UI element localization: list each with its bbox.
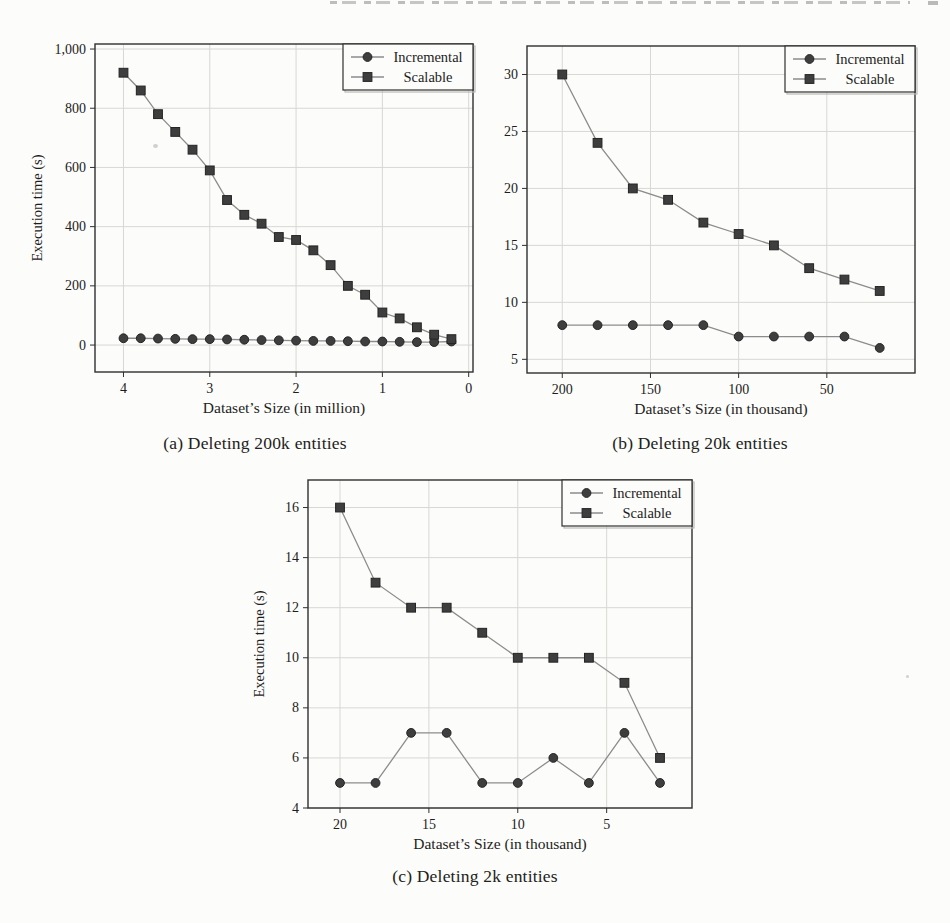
square-marker <box>378 308 387 317</box>
circle-marker <box>257 336 266 345</box>
square-marker <box>628 184 637 193</box>
circle-marker <box>407 728 416 737</box>
circle-marker <box>584 779 593 788</box>
square-marker <box>336 503 345 512</box>
square-marker <box>407 603 416 612</box>
circle-marker <box>805 332 814 341</box>
chart-a-plot: 4321002004006008001,000Dataset’s Size (i… <box>30 28 480 423</box>
y-tick-label: 20 <box>504 181 518 196</box>
circle-marker <box>223 335 232 344</box>
square-marker <box>442 603 451 612</box>
square-marker <box>447 335 456 344</box>
circle-marker <box>478 779 487 788</box>
x-tick-label: 3 <box>206 381 213 396</box>
x-tick-label: 20 <box>333 817 347 832</box>
caption-subfigure-a: (a) Deleting 200k entities <box>30 433 480 454</box>
x-axis-label: Dataset’s Size (in million) <box>203 399 365 417</box>
scan-speck <box>906 675 909 678</box>
square-marker <box>223 196 232 205</box>
y-tick-label: 5 <box>511 352 518 367</box>
y-tick-label: 1,000 <box>55 42 87 57</box>
circle-marker <box>343 337 352 346</box>
y-tick-label: 30 <box>504 67 518 82</box>
clipped-page-number <box>928 1 938 5</box>
circle-marker <box>442 728 451 737</box>
square-marker <box>840 275 849 284</box>
circle-marker <box>593 321 602 330</box>
square-marker <box>119 68 128 77</box>
square-marker <box>171 128 180 137</box>
legend-label-scalable: Scalable <box>622 505 671 521</box>
y-tick-label: 8 <box>292 700 299 715</box>
square-marker <box>361 290 370 299</box>
y-tick-label: 200 <box>65 278 86 293</box>
caption-subfigure-b: (b) Deleting 20k entities <box>490 433 910 454</box>
square-marker <box>549 653 558 662</box>
circle-marker <box>620 728 629 737</box>
circle-marker <box>336 779 345 788</box>
square-marker <box>478 628 487 637</box>
scan-speck <box>153 144 158 148</box>
square-marker <box>584 653 593 662</box>
y-tick-label: 14 <box>285 550 299 565</box>
square-marker <box>371 578 380 587</box>
circle-marker <box>205 335 214 344</box>
square-marker <box>343 281 352 290</box>
square-marker <box>205 166 214 175</box>
square-marker <box>699 218 708 227</box>
circle-marker <box>292 336 301 345</box>
square-marker <box>257 219 266 228</box>
circle-marker <box>154 334 163 343</box>
y-tick-label: 600 <box>65 160 86 175</box>
x-tick-label: 10 <box>511 817 525 832</box>
circle-marker <box>363 53 372 62</box>
legend-label-scalable: Scalable <box>403 69 452 85</box>
scanned-paper-page: 4321002004006008001,000Dataset’s Size (i… <box>0 0 950 923</box>
square-marker <box>656 754 665 763</box>
square-marker <box>188 145 197 154</box>
circle-marker <box>240 335 249 344</box>
chart-b-deleting-20k: 2001501005051015202530Dataset’s Size (in… <box>490 28 945 423</box>
x-tick-label: 2 <box>293 381 300 396</box>
x-tick-label: 150 <box>640 382 661 397</box>
y-tick-label: 10 <box>285 650 299 665</box>
circle-marker <box>805 55 814 64</box>
circle-marker <box>558 321 567 330</box>
square-marker <box>430 330 439 339</box>
square-marker <box>395 314 404 323</box>
square-marker <box>734 230 743 239</box>
square-marker <box>413 323 422 332</box>
square-marker <box>240 210 249 219</box>
circle-marker <box>656 779 665 788</box>
square-marker <box>620 678 629 687</box>
circle-marker <box>378 337 387 346</box>
y-axis-label: Execution time (s) <box>251 590 268 697</box>
scalable-series-line <box>562 74 879 290</box>
circle-marker <box>361 337 370 346</box>
circle-marker <box>549 754 558 763</box>
circle-marker <box>699 321 708 330</box>
circle-marker <box>734 332 743 341</box>
y-tick-label: 4 <box>292 801 299 816</box>
square-marker <box>309 246 318 255</box>
square-marker <box>558 70 567 79</box>
legend-label-incremental: Incremental <box>835 51 904 67</box>
y-tick-label: 400 <box>65 219 86 234</box>
square-marker <box>326 261 335 270</box>
clipped-page-header-text <box>330 0 910 6</box>
y-tick-label: 800 <box>65 101 86 116</box>
x-tick-label: 200 <box>552 382 573 397</box>
square-marker <box>582 509 591 518</box>
y-tick-label: 25 <box>504 124 518 139</box>
circle-marker <box>664 321 673 330</box>
scalable-series-line <box>340 508 660 758</box>
square-marker <box>363 73 372 82</box>
y-tick-label: 15 <box>504 238 518 253</box>
square-marker <box>513 653 522 662</box>
circle-marker <box>770 332 779 341</box>
legend-label-incremental: Incremental <box>393 49 462 65</box>
circle-marker <box>326 337 335 346</box>
square-marker <box>274 233 283 242</box>
circle-marker <box>136 334 145 343</box>
y-axis-label: Execution time (s) <box>30 154 46 261</box>
